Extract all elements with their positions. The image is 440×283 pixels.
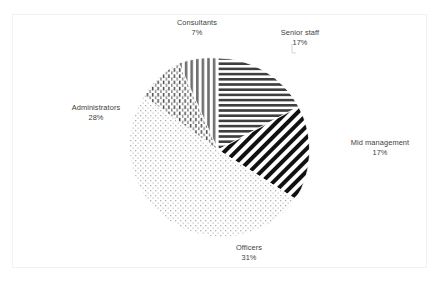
slice-label-mid-management: Mid management 17% [324,138,436,157]
slice-label-administrators-name: Administrators [40,103,152,113]
slice-label-mid-management-name: Mid management [324,138,436,148]
slice-label-consultants-percent: 7% [141,28,253,38]
slice-label-officers-name: Officers [193,243,305,253]
pie-slices [129,58,309,237]
pie-chart-container: Consultants 7% Senior staff 17% Administ… [0,0,440,283]
slice-label-senior-staff: Senior staff 17% [244,28,356,47]
slice-label-administrators-percent: 28% [40,113,152,123]
slice-label-senior-staff-percent: 17% [244,38,356,48]
slice-label-mid-management-percent: 17% [324,148,436,158]
slice-label-officers: Officers 31% [193,243,305,262]
slice-label-officers-percent: 31% [193,253,305,263]
slice-label-consultants-name: Consultants [141,18,253,28]
slice-label-administrators: Administrators 28% [40,103,152,122]
slice-label-senior-staff-name: Senior staff [244,28,356,38]
slice-label-consultants: Consultants 7% [141,18,253,37]
